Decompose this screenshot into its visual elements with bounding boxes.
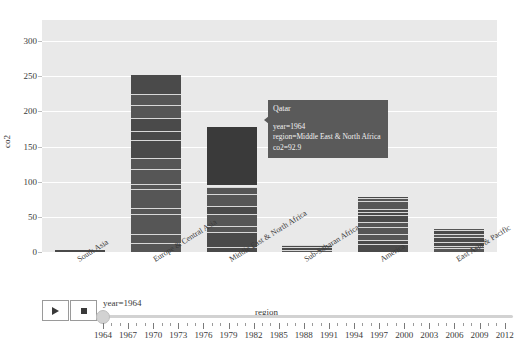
bar-segment[interactable] [131, 95, 181, 104]
bar-segment-divider [358, 215, 408, 216]
gridline [42, 217, 497, 218]
slider-tick-major [354, 323, 355, 329]
bar-segment[interactable] [131, 190, 181, 208]
bar-segment-divider [358, 222, 408, 223]
slider-tick-label: 1985 [270, 331, 288, 340]
bar-segment[interactable] [131, 215, 181, 234]
slider-tick-minor [371, 323, 372, 326]
tooltip-row-co2: co2=92.9 [273, 143, 383, 154]
bar-segment[interactable] [434, 231, 484, 234]
bar-segment[interactable] [131, 159, 181, 169]
slider-tick-minor [162, 323, 163, 326]
bar-segment[interactable] [131, 170, 181, 184]
slider-tick-major [404, 323, 405, 329]
slider-tick-major [329, 323, 330, 329]
tooltip-row-region: region=Middle East & North Africa [273, 132, 383, 143]
bar-segment[interactable] [131, 209, 181, 214]
bar-segment-divider [131, 169, 181, 170]
play-button[interactable] [42, 300, 69, 321]
bar-segment-divider [207, 194, 257, 195]
bar-segment-divider [434, 234, 484, 235]
bar-segment[interactable] [358, 235, 408, 239]
bar[interactable] [131, 75, 181, 252]
bar-segment[interactable] [358, 202, 408, 209]
slider-tick-minor [195, 323, 196, 326]
year-slider-label: year=1964 [103, 298, 142, 308]
slider-tick-minor [321, 323, 322, 326]
bar-segment[interactable] [207, 188, 257, 194]
bar[interactable] [207, 127, 257, 252]
bar-segment[interactable] [358, 199, 408, 201]
slider-tick-minor [287, 323, 288, 326]
bar-segment-divider [131, 208, 181, 209]
slider-tick-label: 2003 [420, 331, 438, 340]
bar-segment[interactable] [131, 119, 181, 131]
bar-segment-divider [434, 230, 484, 231]
bar-segment[interactable] [131, 141, 181, 158]
slider-tick-minor [237, 323, 238, 326]
slider-tick-minor [496, 323, 497, 326]
slider-tick-minor [463, 323, 464, 326]
play-icon [52, 307, 59, 315]
bar-segment[interactable] [358, 228, 408, 235]
bar-segment-divider [207, 187, 257, 188]
slider-tick-minor [413, 323, 414, 326]
y-axis-tick-label: 150 [24, 143, 38, 152]
bar-segment-divider [358, 198, 408, 199]
bar-segment[interactable] [207, 195, 257, 206]
bar-segment[interactable] [434, 229, 484, 230]
y-axis-tick-label: 0 [33, 248, 38, 257]
slider-tick-major [254, 323, 255, 329]
slider-tick-label: 1997 [370, 331, 388, 340]
slider-tick-minor [438, 323, 439, 326]
bar-segment-divider [207, 206, 257, 207]
slider-tick-major [429, 323, 430, 329]
bar-segment-divider [131, 105, 181, 106]
slider-tick-minor [120, 323, 121, 326]
bar-segment[interactable] [207, 207, 257, 214]
slider-tick-label: 1973 [169, 331, 187, 340]
slider-tick-minor [446, 323, 447, 326]
slider-tick-minor [471, 323, 472, 326]
bar-segment-divider [131, 189, 181, 190]
bar-segment[interactable] [358, 210, 408, 213]
tooltip-row-year: year=1964 [273, 122, 383, 133]
year-slider-handle[interactable] [96, 310, 110, 324]
gridline [42, 41, 497, 42]
bar-segment[interactable] [131, 75, 181, 94]
slider-tick-minor [270, 323, 271, 326]
bar-segment-divider [358, 234, 408, 235]
bar-segment[interactable] [358, 223, 408, 227]
y-axis-tick-label: 200 [24, 107, 38, 116]
y-axis-tick-label: 50 [28, 213, 37, 222]
slider-tick-label: 1976 [194, 331, 212, 340]
bar-segment-divider [131, 118, 181, 119]
bar-segment[interactable] [131, 185, 181, 189]
gridline [42, 76, 497, 77]
slider-tick-minor [362, 323, 363, 326]
bar-segment[interactable] [207, 227, 257, 231]
slider-tick-label: 1991 [320, 331, 338, 340]
slider-tick-major [103, 323, 104, 329]
slider-tick-minor [337, 323, 338, 326]
slider-tick-label: 1967 [119, 331, 137, 340]
slider-tick-minor [145, 323, 146, 326]
year-slider[interactable]: year=1964 196419671970197319761979198219… [93, 300, 517, 346]
bar-segment[interactable] [358, 216, 408, 222]
slider-tick-label: 1982 [245, 331, 263, 340]
bar-segment[interactable] [131, 106, 181, 119]
tooltip-title: Qatar [273, 104, 383, 115]
gridline [42, 182, 497, 183]
bar-segment-divider [358, 240, 408, 241]
slider-tick-label: 1994 [345, 331, 363, 340]
bar-segment[interactable] [358, 213, 408, 215]
bar-segment[interactable] [131, 132, 181, 140]
year-slider-rail[interactable] [103, 315, 513, 318]
y-axis-tick-label: 100 [24, 178, 38, 187]
highlighted-bar-segment-qatar[interactable] [207, 127, 257, 187]
slider-tick-minor [111, 323, 112, 326]
bar-segment-divider [207, 214, 257, 215]
slider-tick-label: 2006 [445, 331, 463, 340]
bar-segment[interactable] [434, 235, 484, 238]
slider-tick-label: 1970 [144, 331, 162, 340]
